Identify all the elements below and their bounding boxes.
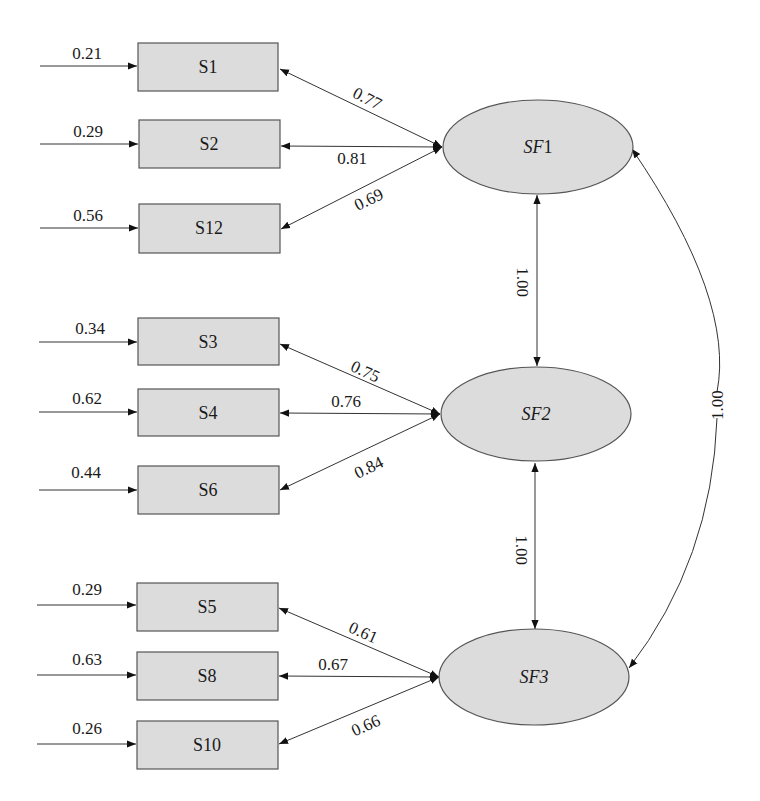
factor-sf3: SF3 [439, 629, 629, 725]
loading-value-s8: 0.67 [318, 655, 348, 674]
factor-sf1: SF1 [443, 100, 633, 194]
indicator-label: S5 [197, 597, 216, 617]
indicator-label: S4 [198, 403, 217, 423]
loading-value-s2: 0.81 [337, 149, 367, 168]
indicator-s10: S10 [137, 721, 278, 769]
loading-value-s5: 0.61 [346, 618, 381, 647]
correlation-value-sf2-sf3: 1.00 [512, 535, 531, 565]
error-value: 0.29 [72, 580, 102, 599]
error-term-s4: 0.62 [39, 389, 137, 412]
loading-arrow-s4 [280, 413, 440, 414]
indicator-label: S10 [193, 735, 221, 755]
loading-value-s4: 0.76 [331, 392, 361, 411]
error-value: 0.56 [73, 206, 103, 225]
correlation-value-sf1-sf3: 1.00 [708, 390, 727, 420]
loading-arrow-s2 [281, 146, 442, 147]
indicator-label: S12 [195, 218, 223, 238]
error-term-s6: 0.44 [39, 463, 137, 490]
indicator-boxes: S1 S2 S12 S3 S4 S6 S5 S8 [137, 43, 280, 769]
indicator-label: S6 [198, 480, 217, 500]
factor-label: SF3 [520, 667, 549, 687]
correlation-value-sf1-sf2: 1.00 [513, 267, 532, 297]
loading-arrow-s8 [279, 676, 439, 677]
loading-arrow-s1 [280, 69, 442, 147]
indicator-s8: S8 [137, 652, 278, 700]
error-term-s1: 0.21 [40, 44, 137, 66]
factor-label: SF2 [522, 404, 551, 424]
error-value: 0.44 [71, 463, 101, 482]
loading-arrow-s5 [279, 608, 439, 677]
indicator-s1: S1 [138, 43, 278, 91]
factor-sf2: SF2 [441, 367, 631, 461]
factor-label: SF1 [524, 137, 553, 157]
indicator-label: S3 [198, 332, 217, 352]
error-term-s3: 0.34 [39, 319, 137, 342]
error-term-s5: 0.29 [37, 580, 136, 605]
error-value: 0.26 [72, 719, 102, 738]
factor-loadings: 0.77 0.81 0.69 0.75 0.76 0.84 0.61 0.67 … [279, 69, 442, 744]
error-value: 0.21 [72, 44, 102, 63]
indicator-s3: S3 [138, 318, 279, 365]
indicator-s12: S12 [139, 204, 280, 253]
error-value: 0.62 [72, 389, 102, 408]
indicator-s2: S2 [139, 120, 280, 168]
error-term-s10: 0.26 [37, 719, 136, 744]
loading-value-s12: 0.69 [351, 184, 386, 214]
loading-value-s1: 0.77 [350, 83, 386, 114]
indicator-s6: S6 [138, 466, 279, 514]
error-term-s8: 0.63 [37, 650, 136, 675]
cfa-path-diagram: 0.21 0.29 0.56 0.34 0.62 0.44 0.29 0.63 [0, 0, 760, 801]
indicator-s5: S5 [137, 583, 278, 631]
loading-value-s10: 0.66 [348, 711, 383, 740]
error-term-s2: 0.29 [40, 122, 138, 144]
latent-factors: SF1 SF2 SF3 [439, 100, 633, 725]
indicator-label: S1 [198, 57, 217, 77]
correlation-arc-sf1-sf3 [629, 149, 720, 668]
indicator-s4: S4 [138, 389, 279, 436]
loading-value-s3: 0.75 [348, 357, 383, 387]
error-value: 0.34 [75, 319, 105, 338]
error-terms: 0.21 0.29 0.56 0.34 0.62 0.44 0.29 0.63 [37, 44, 138, 744]
error-value: 0.63 [72, 650, 102, 669]
indicator-label: S8 [197, 666, 216, 686]
indicator-label: S2 [199, 134, 218, 154]
loading-value-s6: 0.84 [351, 452, 387, 482]
error-term-s12: 0.56 [40, 206, 138, 228]
error-value: 0.29 [73, 122, 103, 141]
